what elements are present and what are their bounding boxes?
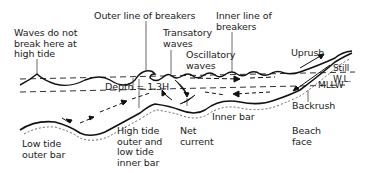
still-water-level-line <box>20 72 355 79</box>
label-inner-bar: Inner bar <box>212 112 254 123</box>
label-high-tide-bar: High tide outer and low tide inner bar <box>117 126 162 168</box>
label-beach-face: Beach face <box>292 126 321 147</box>
label-net-current: Net current <box>180 126 214 147</box>
label-inner-breakers: Inner line of breakers <box>216 11 272 32</box>
label-oscillatory-waves: Oscillatory waves <box>186 50 235 71</box>
label-outer-breakers: Outer line of breakers <box>94 11 195 22</box>
label-depth: Depth = 1.3H <box>105 82 169 93</box>
label-backrush: Backrush <box>292 101 335 112</box>
label-transatory-waves: Transatory waves <box>163 28 212 49</box>
label-uprush: Uprush <box>291 48 324 59</box>
beach-profile-diagram: Waves do not break here at high tide Out… <box>0 0 377 173</box>
label-mllw: MLLW <box>318 80 343 91</box>
label-waves-no-break: Waves do not break here at high tide <box>14 28 77 60</box>
label-low-tide-outer-bar: Low tide outer bar <box>22 139 65 160</box>
